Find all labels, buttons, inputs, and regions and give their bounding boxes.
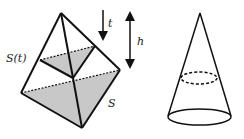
label-t: t	[108, 17, 113, 30]
base-section-shade	[21, 70, 120, 128]
label-S: S	[108, 97, 116, 110]
cone-cross-section	[181, 72, 217, 84]
cone	[168, 13, 231, 125]
label-h: h	[137, 35, 144, 48]
t-arrow-icon	[98, 10, 108, 41]
h-double-arrow-icon	[125, 11, 135, 69]
label-S-t: S(t)	[6, 52, 27, 65]
diagram: t h S(t) S	[0, 0, 244, 139]
